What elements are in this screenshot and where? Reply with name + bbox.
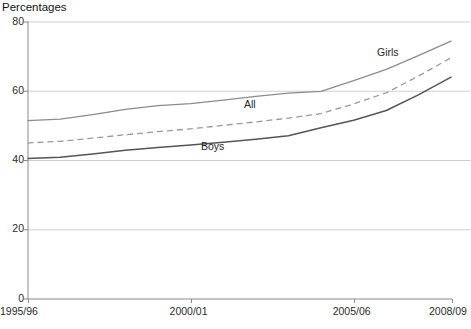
x-tick-label-2005-06: 2005/06 [333,305,371,317]
y-tick-label-0: 0 [0,292,24,304]
x-tick-label-1995-96: 1995/96 [0,305,38,317]
plot-area [0,0,471,329]
tick-marks [24,22,453,303]
series-label-boys: Boys [201,140,224,152]
percentages-line-chart: Percentages 020406080 1995/962000/012005… [0,0,471,329]
y-tick-label-40: 40 [0,153,24,165]
series-label-girls: Girls [377,46,399,58]
x-tick-label-2008-09: 2008/09 [429,305,467,317]
series-label-all: All [244,98,256,110]
series-line-all [28,58,452,144]
y-tick-label-20: 20 [0,222,24,234]
series-lines [28,41,452,159]
y-tick-label-80: 80 [0,15,24,27]
series-line-boys [28,77,452,159]
gridlines [28,22,471,230]
x-tick-label-2000-01: 2000/01 [170,305,208,317]
y-tick-label-60: 60 [0,84,24,96]
